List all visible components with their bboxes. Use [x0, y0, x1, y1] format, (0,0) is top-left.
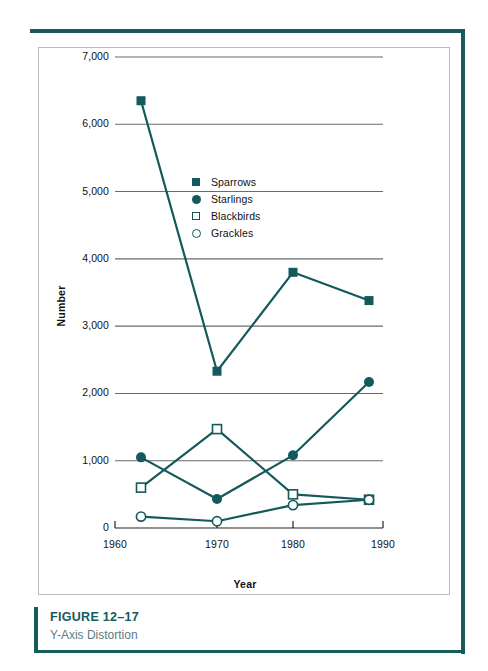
data-point-grackles-1980 — [288, 501, 297, 510]
data-point-sparrows-1960 — [137, 96, 146, 105]
open-square-icon — [189, 212, 203, 220]
legend-item-sparrows: Sparrows — [189, 174, 260, 190]
data-point-starlings-1970 — [212, 494, 222, 504]
chart-legend: SparrowsStarlingsBlackbirdsGrackles — [189, 174, 260, 242]
series-line-grackles — [141, 500, 369, 522]
x-axis-title: Year — [39, 578, 451, 590]
y-tick-label: 0 — [63, 521, 109, 533]
open-square-icon-glyph — [192, 212, 200, 220]
y-tick-label: 1,000 — [63, 454, 109, 466]
figure-caption: FIGURE 12–17 Y-Axis Distortion — [50, 609, 380, 643]
figure-number: FIGURE 12–17 — [50, 609, 380, 625]
data-point-starlings-1990 — [364, 377, 374, 387]
y-tick-label: 2,000 — [63, 386, 109, 398]
frame-bottom-rule — [34, 650, 465, 653]
filled-circle-icon-glyph — [192, 195, 201, 204]
data-point-sparrows-1980 — [289, 268, 298, 277]
x-tick-label: 1960 — [90, 538, 140, 550]
filled-circle-icon — [189, 195, 203, 204]
y-tick-label: 4,000 — [63, 252, 109, 264]
figure-title: Y-Axis Distortion — [50, 627, 380, 643]
series-line-starlings — [141, 382, 369, 499]
y-axis-title: Number — [55, 266, 67, 346]
x-tick-label: 1980 — [268, 538, 318, 550]
x-tick-label: 1990 — [358, 538, 408, 550]
data-point-sparrows-1970 — [213, 367, 222, 376]
chart-panel: Number Year 01,0002,0003,0004,0005,0006,… — [38, 47, 450, 595]
frame-top-rule — [30, 29, 465, 33]
filled-square-icon — [189, 178, 203, 186]
series-line-blackbirds — [141, 429, 369, 500]
data-point-blackbirds-1970 — [213, 425, 222, 434]
open-circle-icon-glyph — [192, 229, 201, 238]
data-point-blackbirds-1980 — [289, 490, 298, 499]
legend-item-starlings: Starlings — [189, 191, 260, 207]
data-point-starlings-1980 — [288, 450, 298, 460]
y-tick-label: 5,000 — [63, 185, 109, 197]
frame-right-rule — [461, 29, 465, 654]
y-tick-label: 7,000 — [63, 50, 109, 62]
y-tick-label: 6,000 — [63, 117, 109, 129]
data-point-grackles-1960 — [136, 512, 145, 521]
legend-item-grackles: Grackles — [189, 225, 260, 241]
x-tick-label: 1970 — [192, 538, 242, 550]
legend-label: Starlings — [211, 193, 253, 205]
legend-label: Blackbirds — [211, 210, 260, 222]
data-point-sparrows-1990 — [365, 296, 374, 305]
legend-label: Grackles — [211, 227, 253, 239]
data-point-blackbirds-1960 — [137, 483, 146, 492]
y-tick-label: 3,000 — [63, 319, 109, 331]
filled-square-icon-glyph — [192, 178, 200, 186]
data-point-grackles-1970 — [212, 517, 221, 526]
legend-label: Sparrows — [211, 176, 256, 188]
caption-accent-bar — [34, 607, 38, 653]
data-point-starlings-1960 — [136, 452, 146, 462]
data-point-grackles-1990 — [364, 495, 373, 504]
open-circle-icon — [189, 229, 203, 238]
legend-item-blackbirds: Blackbirds — [189, 208, 260, 224]
